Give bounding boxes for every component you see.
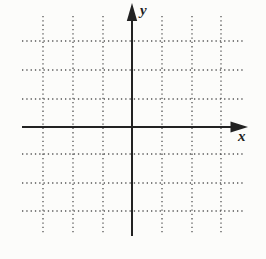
- y-axis-label: y: [138, 2, 147, 18]
- figure-canvas: y x: [0, 0, 266, 259]
- y-axis-arrowhead-icon: [127, 3, 137, 21]
- coordinate-plane: y x: [0, 0, 266, 259]
- x-axis-label: x: [237, 128, 246, 144]
- axes: [22, 3, 248, 236]
